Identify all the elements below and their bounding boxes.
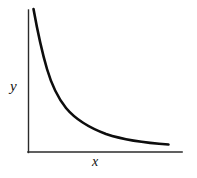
x-axis-label: x [92, 155, 98, 169]
figure-container: y x [0, 0, 197, 178]
plot-area [0, 0, 197, 178]
decay-curve-path [34, 9, 169, 145]
y-axis-label: y [10, 79, 17, 94]
